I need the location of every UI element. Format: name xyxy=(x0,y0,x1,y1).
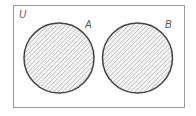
set-a-circle xyxy=(24,23,94,93)
set-b-circle xyxy=(103,23,173,93)
set-b-label: B xyxy=(165,19,172,30)
venn-diagram: U A B xyxy=(0,0,196,116)
set-a-label: A xyxy=(84,19,92,30)
universe-label: U xyxy=(19,9,27,20)
